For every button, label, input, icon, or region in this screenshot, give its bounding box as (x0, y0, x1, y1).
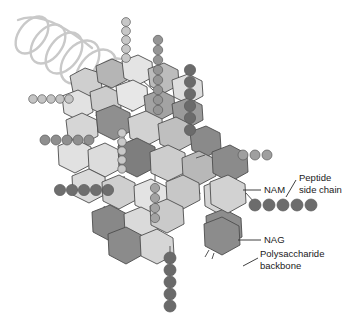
peptide-side-chain (164, 252, 176, 312)
peptide-side-chain (40, 135, 94, 145)
peptidoglycan-diagram: NAM NAG Peptide side chain Polysaccharid… (0, 0, 361, 322)
label-polysaccharide-line2: backbone (260, 260, 301, 271)
diagram-canvas: NAM NAG Peptide side chain Polysaccharid… (0, 0, 361, 322)
peptide-side-chain (29, 95, 74, 104)
peptide-side-chain (238, 150, 272, 160)
peptide-side-chain (118, 129, 126, 173)
peptide-side-chain-labeled (249, 199, 317, 211)
peptide-side-chain (54, 184, 113, 195)
label-polysaccharide-line1: Polysaccharide (260, 248, 324, 259)
label-nam: NAM (264, 184, 285, 195)
label-nag: NAG (264, 234, 285, 245)
label-peptide-line1: Peptide (299, 172, 331, 183)
label-peptide-line2: side chain (299, 184, 342, 195)
peptide-side-chain (122, 18, 131, 63)
